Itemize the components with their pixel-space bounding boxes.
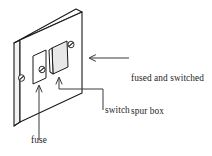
- label-fused-and-switched-spur-box: fused and switched spur box: [131, 51, 204, 139]
- label-switch: switch: [105, 105, 130, 116]
- spur-box-drawing: [14, 9, 82, 126]
- spur-box-pointer: [89, 55, 129, 61]
- faceplate-left-edge: [14, 40, 20, 126]
- fixing-screw-right: [68, 41, 74, 48]
- fixing-screw-centre: [39, 66, 45, 73]
- figure-canvas: fused and switched spur box switch fuse: [0, 0, 212, 156]
- label-fuse: fuse: [31, 135, 47, 146]
- label-spur-box-line1: fused and switched: [131, 73, 204, 84]
- fixing-screw-left: [19, 75, 25, 82]
- switch-rocker-side: [49, 48, 53, 74]
- label-spur-box-line2: spur box: [131, 106, 204, 117]
